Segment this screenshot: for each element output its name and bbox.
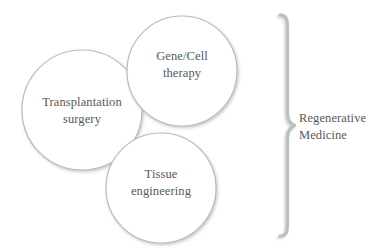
bubble-label-gene-cell-therapy: Gene/Cell therapy: [127, 48, 237, 81]
bubble-label-tissue-engineering: Tissue engineering: [106, 166, 216, 199]
diagram-canvas: Transplantation surgery Gene/Cell therap…: [0, 0, 391, 251]
bubble-label-transplantation-surgery: Transplantation surgery: [22, 94, 142, 127]
curly-brace-icon: [280, 15, 295, 236]
group-label-regenerative-medicine: Regenerative Medicine: [299, 110, 391, 143]
